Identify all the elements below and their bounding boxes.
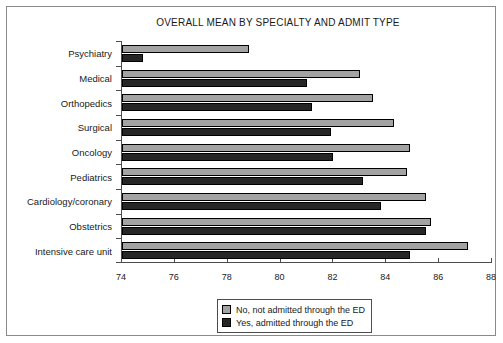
y-tick-4 xyxy=(116,140,121,141)
y-tick-1 xyxy=(116,66,121,67)
x-tick-86 xyxy=(438,258,439,263)
legend-item-no: No, not admitted through the ED xyxy=(222,303,365,316)
legend-item-yes: Yes, admitted through the ED xyxy=(222,316,365,329)
legend-swatch-yes xyxy=(222,318,231,327)
x-tick-label-74: 74 xyxy=(116,272,126,282)
bar xyxy=(122,54,143,62)
x-tick-label-84: 84 xyxy=(380,272,390,282)
category-label-oncology: Oncology xyxy=(72,147,112,158)
bar xyxy=(122,70,360,78)
bar xyxy=(122,242,468,250)
bar xyxy=(122,227,426,235)
x-tick-label-80: 80 xyxy=(275,272,285,282)
category-label-pediatrics: Pediatrics xyxy=(70,171,112,182)
bar xyxy=(122,251,410,259)
category-label-surgical: Surgical xyxy=(78,122,112,133)
y-tick-0 xyxy=(116,41,121,42)
bar xyxy=(122,103,312,111)
y-tick-6 xyxy=(116,189,121,190)
x-tick-label-86: 86 xyxy=(433,272,443,282)
bar xyxy=(122,128,331,136)
plot-area: 7476788082848688 PsychiatryMedicalOrthop… xyxy=(121,41,492,263)
bar xyxy=(122,177,363,185)
x-tick-88 xyxy=(491,258,492,263)
x-tick-label-82: 82 xyxy=(327,272,337,282)
category-label-medical: Medical xyxy=(79,73,112,84)
category-label-cardiology-coronary: Cardiology/coronary xyxy=(27,196,112,207)
y-tick-baseline xyxy=(116,262,121,263)
bar xyxy=(122,153,333,161)
x-tick-label-88: 88 xyxy=(486,272,496,282)
chart-frame: OVERALL MEAN BY SPECIALTY AND ADMIT TYPE… xyxy=(6,6,496,336)
legend-label-no: No, not admitted through the ED xyxy=(236,305,365,315)
y-tick-3 xyxy=(116,115,121,116)
category-label-obstetrics: Obstetrics xyxy=(69,221,112,232)
x-tick-label-76: 76 xyxy=(169,272,179,282)
y-tick-8 xyxy=(116,238,121,239)
bar xyxy=(122,119,394,127)
y-tick-7 xyxy=(116,214,121,215)
bar xyxy=(122,193,426,201)
bar xyxy=(122,202,381,210)
bar xyxy=(122,45,249,53)
bar xyxy=(122,218,431,226)
bar xyxy=(122,94,373,102)
x-tick-label-78: 78 xyxy=(222,272,232,282)
bar xyxy=(122,144,410,152)
category-label-psychiatry: Psychiatry xyxy=(68,48,112,59)
bar xyxy=(122,168,407,176)
legend-swatch-no xyxy=(222,305,231,314)
bar xyxy=(122,79,307,87)
chart-title: OVERALL MEAN BY SPECIALTY AND ADMIT TYPE xyxy=(7,17,495,28)
chart-legend: No, not admitted through the ED Yes, adm… xyxy=(217,299,372,333)
y-tick-5 xyxy=(116,164,121,165)
y-tick-2 xyxy=(116,90,121,91)
legend-label-yes: Yes, admitted through the ED xyxy=(236,318,353,328)
x-axis-line xyxy=(121,262,492,263)
category-label-intensive-care-unit: Intensive care unit xyxy=(35,245,112,256)
category-label-orthopedics: Orthopedics xyxy=(61,97,112,108)
